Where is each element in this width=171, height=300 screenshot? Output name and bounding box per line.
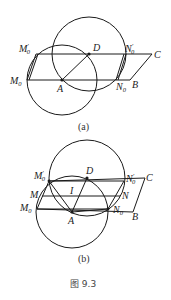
label-a: A: [67, 215, 75, 226]
label-n: N: [121, 190, 130, 201]
point-n0: [107, 208, 110, 211]
label-n0: N0: [115, 81, 127, 93]
label-m0-prime: M′0: [18, 42, 31, 55]
label-m0-prime: M′0: [33, 169, 46, 182]
label-d: D: [85, 165, 94, 176]
point-m0p: [48, 180, 51, 183]
line-a-d: [72, 178, 87, 212]
label-d: D: [92, 42, 101, 53]
panel-b: M′0 M M0 D I A N′0 N N0 C B (b): [19, 140, 153, 265]
point-a: [70, 210, 73, 213]
label-b: B: [132, 211, 138, 222]
point-d: [87, 52, 90, 55]
segment-n0-n0p-2: [118, 54, 126, 80]
point-d: [85, 176, 88, 179]
caption-b: (b): [78, 253, 90, 265]
label-b: B: [132, 79, 138, 90]
label-m0: M0: [19, 202, 32, 214]
label-i: I: [69, 185, 74, 196]
figure-caption: 图 9.3: [70, 279, 96, 289]
segment-m0-m0p: [27, 54, 36, 80]
point-a: [60, 78, 63, 81]
label-n0-prime: N′0: [124, 42, 135, 55]
panel-a: M′0 M0 D N′0 C A N0 B (a): [9, 17, 161, 133]
line-b-c: [130, 54, 152, 80]
label-m0: M0: [9, 75, 22, 87]
segment-m0-m0p-2: [29, 54, 38, 80]
label-c: C: [146, 172, 153, 183]
figure-9-3: M′0 M0 D N′0 C A N0 B (a): [0, 0, 171, 300]
label-c: C: [154, 49, 161, 60]
label-m: M: [29, 189, 39, 200]
segment-m0-m0p: [37, 181, 49, 209]
caption-a: (a): [78, 121, 89, 133]
label-n0-prime: N′0: [125, 172, 136, 185]
label-n0: N0: [112, 204, 124, 216]
line-a-d: [62, 54, 89, 80]
segment-n0-n0p: [116, 54, 124, 80]
label-a: A: [56, 83, 64, 94]
